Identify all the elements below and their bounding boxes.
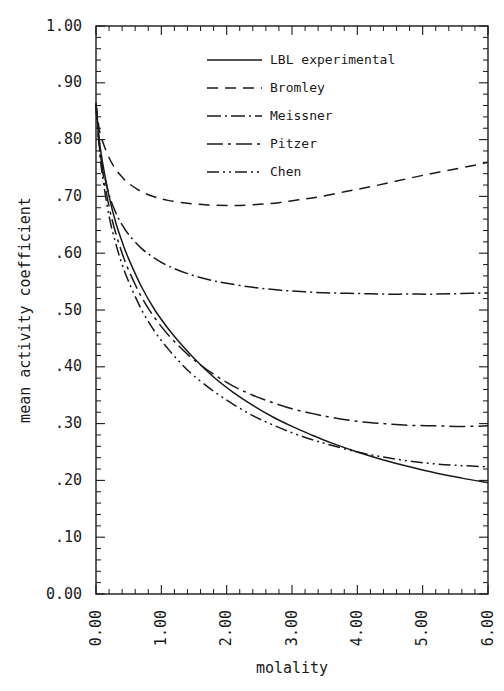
x-axis-title: molality bbox=[256, 659, 328, 677]
y-tick-label: .30 bbox=[55, 414, 82, 432]
x-tick-label: 6.00 bbox=[479, 610, 497, 646]
x-tick-label: 4.00 bbox=[348, 610, 366, 646]
y-tick-label: .90 bbox=[55, 73, 82, 91]
x-tick-label: 0.00 bbox=[87, 610, 105, 646]
y-tick-label: .20 bbox=[55, 471, 82, 489]
x-axis-tick-labels: 0.001.002.003.004.005.006.00 bbox=[87, 610, 497, 646]
y-tick-label: .70 bbox=[55, 187, 82, 205]
legend-label-lbl-experimental: LBL experimental bbox=[270, 52, 395, 67]
x-tick-label: 2.00 bbox=[217, 610, 235, 646]
chart-canvas: 0.00.10.20.30.40.50.60.70.80.901.00 0.00… bbox=[0, 0, 504, 691]
y-tick-label: .60 bbox=[55, 244, 82, 262]
chart-legend: LBL experimentalBromleyMeissnerPitzerChe… bbox=[207, 52, 395, 179]
y-tick-label: .80 bbox=[55, 130, 82, 148]
curve-chen bbox=[96, 106, 488, 467]
data-curves bbox=[96, 103, 488, 483]
y-tick-label: 1.00 bbox=[46, 17, 82, 35]
y-tick-label: 0.00 bbox=[46, 585, 82, 603]
y-tick-label: .50 bbox=[55, 301, 82, 319]
activity-coefficient-chart: 0.00.10.20.30.40.50.60.70.80.901.00 0.00… bbox=[0, 0, 504, 691]
x-tick-label: 5.00 bbox=[413, 610, 431, 646]
legend-label-meissner: Meissner bbox=[270, 108, 333, 123]
y-axis-title: mean activity coefficient bbox=[16, 197, 34, 423]
x-tick-label: 1.00 bbox=[152, 610, 170, 646]
y-tick-label: .10 bbox=[55, 528, 82, 546]
legend-label-bromley: Bromley bbox=[270, 80, 325, 95]
legend-label-chen: Chen bbox=[270, 164, 301, 179]
curve-pitzer bbox=[96, 104, 488, 426]
y-axis-tick-labels: 0.00.10.20.30.40.50.60.70.80.901.00 bbox=[46, 17, 82, 603]
x-tick-label: 3.00 bbox=[283, 610, 301, 646]
y-tick-label: .40 bbox=[55, 357, 82, 375]
legend-label-pitzer: Pitzer bbox=[270, 136, 317, 151]
